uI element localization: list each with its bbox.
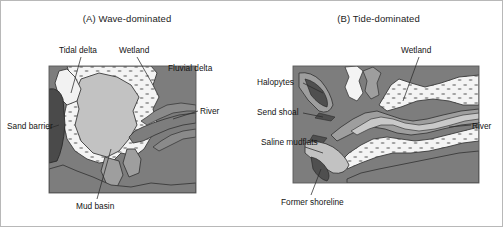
label-former-shoreline: Former shoreline bbox=[281, 197, 344, 207]
label-wetland-a: Wetland bbox=[119, 45, 149, 55]
panel-wave-dominated: (A) Wave-dominated bbox=[1, 1, 253, 227]
label-tidal-delta: Tidal delta bbox=[59, 45, 97, 55]
label-send-shoal: Send shoal bbox=[257, 107, 299, 117]
label-river-a: River bbox=[200, 106, 219, 116]
label-river-b: River bbox=[472, 121, 491, 131]
label-mud-basin: Mud basin bbox=[76, 201, 114, 211]
label-fluvial-delta: Fluvial delta bbox=[168, 63, 206, 73]
panel-tide-dominated: (B) Tide-dominated bbox=[253, 1, 503, 227]
map-b-body bbox=[293, 66, 479, 183]
label-saline-mudflats: Saline mudflats bbox=[261, 137, 305, 147]
map-a-body bbox=[49, 66, 196, 193]
label-halopytes: Halopytes bbox=[257, 77, 294, 87]
label-wetland-b: Wetland bbox=[401, 45, 431, 55]
label-sand-barrier: Sand barrier bbox=[7, 121, 47, 131]
figure-root: (A) Wave-dominated bbox=[0, 0, 503, 227]
